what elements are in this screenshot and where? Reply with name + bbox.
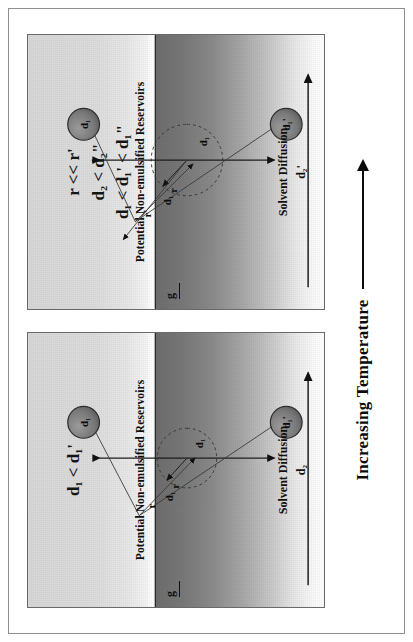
droplet-top-label: d₁ [77,120,89,129]
radius-outer-label: r [145,504,157,509]
distance-label: d₁ [163,492,175,501]
solvent-diffusion-text: Solvent Diffusion [276,426,290,514]
radius-outer-label: r' [141,210,153,218]
reservoir-leader-4 [123,160,187,239]
solvent-diffusion-label: Solvent Diffusion d₂ [274,333,310,607]
solvent-diffusion-value: d₂' [292,35,310,309]
temperature-axis-label: Increasing Temperature [353,299,373,480]
reservoir-leader-1 [89,124,135,221]
reservoir-leader-1 [90,422,139,515]
figure: d₁ < d₁' Potential Non-emulsified Reserv… [17,16,397,626]
core-label: d₁ [196,137,208,146]
reservoir-leader-2 [139,422,278,515]
distance-label: d₁ [161,196,173,205]
droplet-top-label: d₁ [77,418,89,427]
temperature-arrow-icon [362,161,364,289]
rotated-figure-stage: d₁ < d₁' Potential Non-emulsified Reserv… [17,16,397,626]
radius-label: r [168,484,180,489]
radius-label: r [166,188,178,193]
solvent-diffusion-text: Solvent Diffusion [276,128,290,216]
diagram-panel-high-temperature: r << r' d₂ < d₂" d₁ < d₁' < d₁" Potentia… [27,34,325,310]
page-frame: d₁ < d₁' Potential Non-emulsified Reserv… [8,8,405,634]
diagram-panel-low-temperature: d₁ < d₁' Potential Non-emulsified Reserv… [27,332,325,608]
core-label: d₁ [192,439,204,448]
temperature-axis: Increasing Temperature [343,34,383,608]
solvent-diffusion-value: d₂ [292,333,310,607]
panel-row: d₁ < d₁' Potential Non-emulsified Reserv… [27,34,325,608]
solvent-diffusion-label: Solvent Diffusion d₂' [274,35,310,309]
